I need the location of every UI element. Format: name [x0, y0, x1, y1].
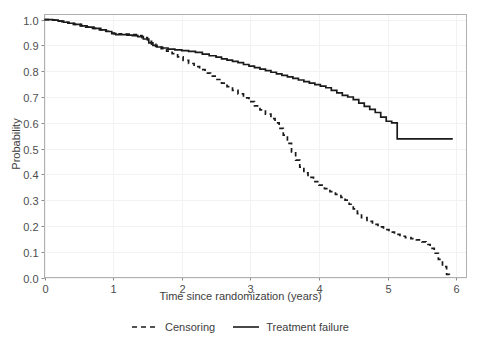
- series-line-treatment-failure: [45, 20, 453, 139]
- y-tick-label: 0.5: [23, 144, 38, 156]
- survival-chart-figure: 0.00.10.20.30.40.50.60.70.80.91.00123456…: [0, 0, 481, 343]
- chart-legend: Censoring Treatment failure: [0, 321, 481, 333]
- y-tick-label: 0.1: [23, 247, 38, 259]
- legend-label-censoring: Censoring: [165, 321, 215, 333]
- plot-panel-border: [45, 15, 467, 278]
- y-tick-label: 0.7: [23, 92, 38, 104]
- legend-item-treatment-failure: Treatment failure: [233, 321, 349, 333]
- y-axis-title: Probability: [10, 84, 22, 204]
- legend-key-dashed-icon: [132, 322, 158, 332]
- y-tick-label: 0.4: [23, 169, 38, 181]
- x-axis-title: Time since randomization (years): [0, 290, 481, 302]
- gridlines: [45, 15, 467, 279]
- legend-key-solid-icon: [233, 322, 259, 332]
- data-series: [45, 20, 453, 277]
- axis-ticks: [42, 21, 457, 281]
- y-tick-label: 0.6: [23, 118, 38, 130]
- y-tick-label: 0.8: [23, 66, 38, 78]
- legend-item-censoring: Censoring: [132, 321, 215, 333]
- y-tick-label: 0.3: [23, 195, 38, 207]
- y-tick-label: 0.2: [23, 221, 38, 233]
- legend-label-treatment-failure: Treatment failure: [266, 321, 349, 333]
- y-tick-label: 1.0: [23, 15, 38, 27]
- y-tick-label: 0.9: [23, 40, 38, 52]
- y-tick-label: 0.0: [23, 273, 38, 285]
